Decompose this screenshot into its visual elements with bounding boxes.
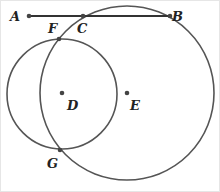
label-b: B: [171, 9, 183, 24]
label-d: D: [66, 98, 79, 113]
label-e: E: [129, 98, 141, 113]
diagram-svg: ABCFDEG: [0, 0, 220, 192]
point-e: [125, 91, 130, 96]
label-f: F: [47, 21, 58, 36]
point-c: [81, 14, 86, 19]
label-g: G: [47, 156, 58, 171]
point-g: [58, 148, 63, 153]
label-c: C: [77, 21, 88, 36]
point-f: [57, 37, 62, 42]
point-a: [27, 14, 32, 19]
geometry-diagram: ABCFDEG: [0, 0, 220, 192]
label-a: A: [8, 9, 20, 24]
point-d: [60, 91, 65, 96]
